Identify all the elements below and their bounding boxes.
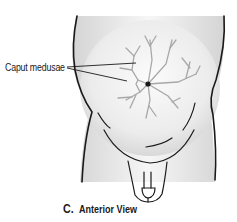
caption-title: Anterior View bbox=[79, 203, 137, 215]
figure-caption: C. Anterior View bbox=[63, 199, 137, 217]
caption-letter: C. bbox=[63, 201, 74, 216]
anatomical-illustration: Caput medusae C. Anterior View bbox=[0, 0, 237, 222]
caput-medusae-label: Caput medusae bbox=[5, 62, 65, 73]
torso-drawing bbox=[0, 0, 237, 222]
umbilicus bbox=[145, 81, 150, 86]
